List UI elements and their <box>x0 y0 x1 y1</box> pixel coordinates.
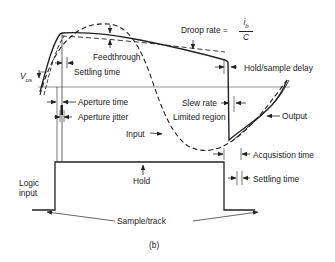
input-label: Input <box>126 129 145 139</box>
aperture-jitter-label: Aperture jitter <box>78 112 128 122</box>
feedthrough-label: Feedthrough <box>93 52 141 62</box>
sample-track-label: Sample/track <box>117 216 166 226</box>
vos-sub: os <box>26 77 32 83</box>
droop-num-sub: b <box>245 23 248 29</box>
output-label: Output <box>282 111 307 121</box>
settling-time-top-label: Settling time <box>74 67 120 77</box>
droop-rate-label: Droop rate = <box>181 25 228 35</box>
logic-input-waveform <box>32 162 255 210</box>
output-waveform <box>40 33 287 140</box>
droop-den: C <box>239 32 253 42</box>
aperture-jitter-mark <box>61 105 64 115</box>
vos-label: Vos <box>20 71 32 85</box>
logic-input-label: Logic input <box>19 178 39 198</box>
feedthrough-dashed <box>62 36 225 52</box>
logic-input-line1: Logic <box>19 178 39 188</box>
logic-input-line2: input <box>19 188 39 198</box>
droop-rate-fraction: ib C <box>239 17 253 42</box>
hold-label: Hold <box>133 176 150 186</box>
slew-rate-label: Slew rate <box>182 98 217 108</box>
aperture-time-label: Aperture time <box>78 97 128 107</box>
acquisition-time-label: Acqusistion time <box>253 150 314 160</box>
settling-time-bottom-label: Settling time <box>253 174 299 184</box>
figure-caption: (b) <box>149 240 159 250</box>
limited-region-label: Limited region <box>173 112 226 122</box>
hold-sample-delay-label: Hold/sample delay <box>244 63 313 73</box>
sample-hold-timing-diagram <box>0 0 335 262</box>
